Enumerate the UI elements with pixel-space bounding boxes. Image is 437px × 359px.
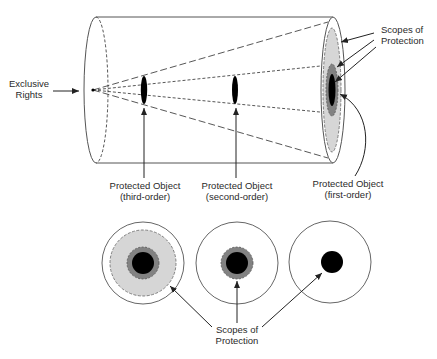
exclusive-rights-label-2: Rights [16, 89, 43, 100]
origin-point-icon [91, 88, 94, 91]
cross-section-first-order [289, 221, 371, 303]
first-order-label-1: Protected Object [313, 178, 384, 189]
projection-rays [91, 22, 330, 158]
scopes-label-top-1: Scopes of [381, 24, 424, 35]
cross-section-third-order [102, 222, 184, 304]
cylinder [84, 17, 333, 163]
scopes-label-top-2: Protection [381, 35, 424, 46]
first-order-label-2: (first-order) [325, 189, 372, 200]
cylinder-right-end [321, 17, 345, 163]
scopes-label-bottom-2: Protection [216, 335, 259, 346]
exclusive-rights-label-1: Exclusive [9, 78, 49, 89]
protection-scope-diagram: Exclusive Rights Scopes of Protection Pr… [0, 0, 437, 359]
third-order-label-1: Protected Object [110, 180, 181, 191]
third-order-object [141, 76, 147, 104]
second-order-label-2: (second-order) [206, 191, 268, 202]
second-order-label-1: Protected Object [202, 180, 273, 191]
scopes-label-bottom-1: Scopes of [216, 324, 259, 335]
first-order-object [329, 74, 336, 106]
third-order-label-2: (third-order) [120, 191, 170, 202]
second-order-object [232, 76, 238, 104]
